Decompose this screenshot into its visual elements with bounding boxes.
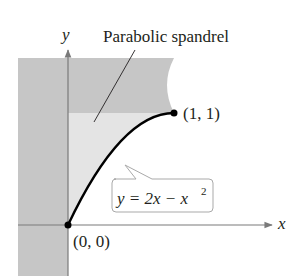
equation-exponent: 2 [201,185,207,197]
x-axis-label: x [277,214,286,233]
endpoint-label: (1, 1) [183,104,220,123]
equation-label: y = 2x − x [115,189,189,208]
origin-label: (0, 0) [73,232,110,251]
parabolic-spandrel-diagram: y x Parabolic spandrel (1, 1) (0, 0) y =… [0,0,296,276]
y-axis-label: y [60,25,70,44]
origin-point [65,222,72,229]
endpoint-point [171,110,178,117]
spandrel-label: Parabolic spandrel [103,27,229,46]
